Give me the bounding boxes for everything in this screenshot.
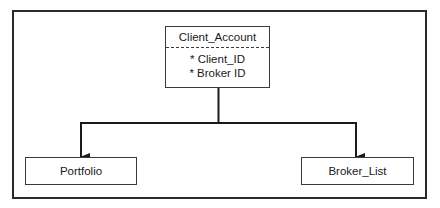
entity-title: Client_Account — [166, 27, 269, 47]
entity-label: Broker_List — [302, 158, 413, 184]
attribute-list: * Client_ID * Broker ID — [166, 48, 269, 80]
entity-portfolio: Portfolio — [25, 157, 137, 185]
entity-label: Portfolio — [26, 158, 136, 184]
attribute-broker-id: * Broker ID — [166, 66, 269, 80]
attribute-client-id: * Client_ID — [166, 52, 269, 66]
entity-broker-list: Broker_List — [301, 157, 414, 185]
entity-client-account: Client_Account * Client_ID * Broker ID — [165, 26, 270, 88]
